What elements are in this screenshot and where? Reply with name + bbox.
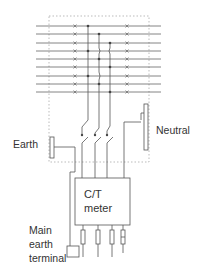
neutral-label: Neutral (156, 124, 190, 137)
main-earth-label-2: earth (29, 238, 53, 251)
ct-label: C/T (84, 188, 102, 201)
neutral-bar (124, 104, 148, 178)
main-earth-label-1: Main (29, 224, 52, 237)
meter-outputs (81, 225, 125, 257)
earth-label: Earth (13, 138, 38, 151)
meter-label: meter (84, 202, 112, 215)
earth-bar (50, 137, 75, 246)
isolator-switches (82, 120, 113, 178)
phase-buses (88, 26, 110, 128)
junction-dots (81, 25, 111, 137)
main-earth-terminal-box (67, 246, 79, 257)
main-earth-label-3: terminal (29, 252, 66, 265)
